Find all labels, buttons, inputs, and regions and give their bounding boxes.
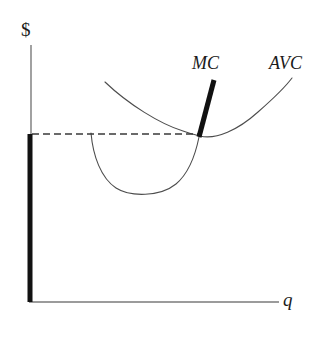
y-axis-label: $	[21, 20, 31, 39]
economics-diagram: $ q MC AVC	[0, 0, 324, 340]
avc-curve-label: AVC	[269, 54, 302, 72]
avc-curve	[105, 78, 292, 137]
mc-bold-supply-segment	[199, 80, 214, 137]
mc-curve-label: MC	[192, 54, 219, 72]
mc-curve	[91, 133, 199, 194]
diagram-canvas	[0, 0, 324, 340]
x-axis-label: q	[283, 290, 293, 309]
